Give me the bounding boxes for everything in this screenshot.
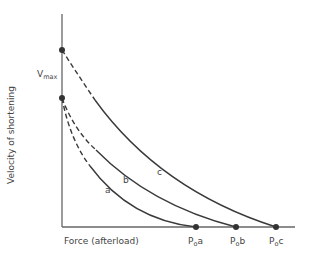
vmax-label: Vmax [37, 70, 57, 81]
point-upper-intercept [59, 47, 65, 53]
pob-label: Pob [230, 237, 245, 248]
curve-b-label: b [123, 176, 129, 185]
poa-label: Poa [188, 237, 203, 248]
y-axis-label: Velocity of shortening [7, 86, 16, 184]
curve-c-solid [95, 100, 276, 227]
vmax-sub: max [43, 73, 57, 81]
poa-suffix: a [197, 236, 203, 246]
point-vmax [59, 95, 65, 101]
curve-b-dashed [62, 98, 96, 150]
pob-suffix: b [239, 236, 245, 246]
x-axis-label: Force (afterload) [64, 237, 139, 246]
curve-a-solid [90, 166, 196, 227]
point-pob [233, 224, 239, 230]
poc-suffix: c [278, 236, 283, 246]
curve-c-label: c [157, 168, 162, 177]
curve-a-label: a [105, 186, 111, 195]
curve-c-dashed [62, 50, 95, 100]
point-poc [273, 224, 279, 230]
curve-b-solid [96, 150, 236, 227]
point-poa [193, 224, 199, 230]
force-velocity-diagram [0, 0, 309, 260]
poc-label: Poc [269, 237, 283, 248]
